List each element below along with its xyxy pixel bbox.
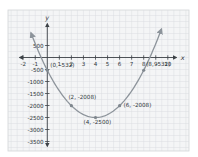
y-tick-label: -3500 <box>27 139 44 145</box>
y-tick-label: -500 <box>31 67 44 73</box>
y-axis-label: y <box>44 14 49 22</box>
point-label: (6, -2008) <box>124 102 152 108</box>
x-tick-label: -2 <box>20 61 26 67</box>
data-point <box>118 104 121 107</box>
y-tick-label: -3000 <box>27 127 44 133</box>
point-label: (4, -2500) <box>84 119 112 125</box>
graph-paper: -2-112345678910500-500-1000-1500-2000-25… <box>0 0 198 157</box>
y-tick-label: -1000 <box>27 79 44 85</box>
x-axis-label: x <box>180 54 185 62</box>
x-tick-label: 7 <box>130 61 134 67</box>
y-tick-label: -2000 <box>27 103 44 109</box>
data-point <box>70 104 73 107</box>
parabola-plot-svg: -2-112345678910500-500-1000-1500-2000-25… <box>0 0 198 157</box>
x-tick-label: 6 <box>118 61 122 67</box>
data-point <box>142 69 145 72</box>
data-point <box>46 69 49 72</box>
point-label: (0, -532) <box>50 62 74 68</box>
parabola-graph-figure: -2-112345678910500-500-1000-1500-2000-25… <box>0 0 198 157</box>
point-label: (8, -532) <box>146 61 170 67</box>
point-label: (2, -2008) <box>68 94 96 100</box>
x-tick-label: 5 <box>106 61 110 67</box>
x-tick-label: 4 <box>94 61 98 67</box>
x-tick-label: 3 <box>82 61 86 67</box>
y-tick-label: -2500 <box>27 115 44 121</box>
y-tick-label: -1500 <box>27 91 44 97</box>
